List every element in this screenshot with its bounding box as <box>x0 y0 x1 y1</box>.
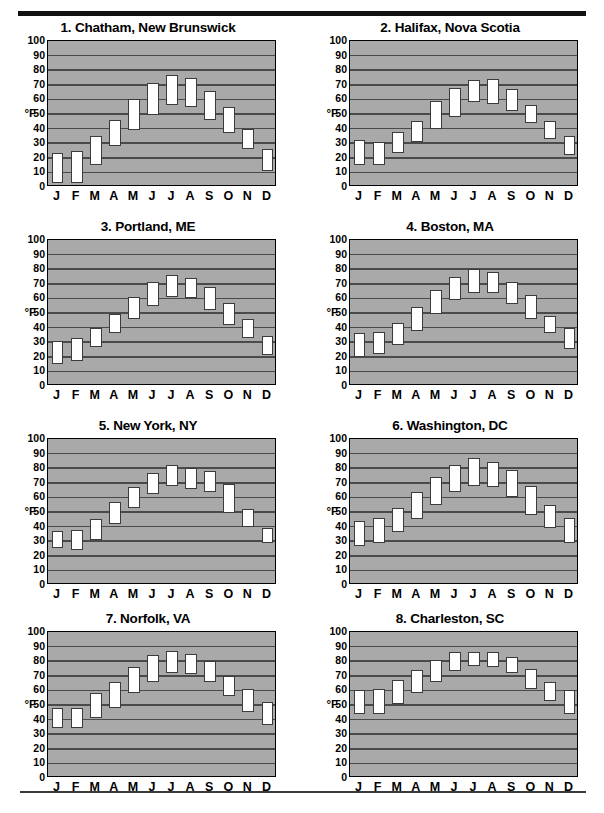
gridline <box>350 254 577 256</box>
gridline <box>350 312 577 314</box>
gridline <box>48 254 275 256</box>
chart-panel-8: 8. Charleston, SC0102030405060708090100°… <box>302 609 604 799</box>
y-axis-tick-label: 80 <box>321 64 347 74</box>
y-axis-tick-label: 80 <box>321 655 347 665</box>
y-axis-tick-label: 70 <box>19 477 45 487</box>
x-axis-tick-label: J <box>168 189 175 203</box>
range-box <box>430 290 442 315</box>
y-axis-tick-label: 60 <box>321 292 347 302</box>
x-axis-tick-label: M <box>89 388 99 402</box>
range-box <box>564 328 576 350</box>
x-axis-tick-label: J <box>53 587 60 601</box>
y-axis-tick-label: 10 <box>321 365 347 375</box>
range-box <box>71 151 83 183</box>
y-axis-tick-label: 40 <box>321 521 347 531</box>
gridline <box>48 733 275 735</box>
range-box <box>128 667 140 693</box>
range-box <box>242 319 254 338</box>
gridline <box>48 371 275 373</box>
gridline <box>48 298 275 300</box>
range-box <box>128 297 140 319</box>
range-box <box>90 693 102 718</box>
range-box <box>166 75 178 106</box>
range-box <box>544 316 556 334</box>
gridline <box>48 763 275 765</box>
plot-area <box>349 631 578 777</box>
x-axis-tick-label: J <box>470 189 477 203</box>
range-box <box>71 530 83 550</box>
x-axis-tick-label: F <box>374 388 382 402</box>
plot-area <box>349 239 578 385</box>
y-axis-tick-label: 60 <box>321 684 347 694</box>
y-axis-tick-label: 0 <box>19 380 45 390</box>
y-axis-tick-label: 60 <box>321 93 347 103</box>
y-axis-tick-label: 30 <box>19 535 45 545</box>
range-box <box>544 505 556 528</box>
y-axis-tick-label: 80 <box>321 462 347 472</box>
x-axis-tick-label: J <box>148 189 155 203</box>
range-box <box>262 336 274 355</box>
x-axis: JFMAMJJASOND <box>47 587 276 603</box>
gridline <box>48 283 275 285</box>
y-axis-tick-label: 10 <box>321 564 347 574</box>
range-box <box>564 136 576 155</box>
x-axis: JFMAMJJASOND <box>47 388 276 404</box>
range-box <box>147 83 159 115</box>
gridline <box>350 84 577 86</box>
gridline <box>350 646 577 648</box>
gridline <box>350 371 577 373</box>
x-axis: JFMAMJJASOND <box>349 189 578 205</box>
top-rule-divider <box>18 11 586 16</box>
range-box <box>109 314 121 333</box>
y-axis-tick-label: 30 <box>19 336 45 346</box>
x-axis-tick-label: S <box>205 189 213 203</box>
plot-canvas <box>349 438 578 584</box>
y-axis-tick-label: 20 <box>321 743 347 753</box>
range-box <box>373 142 385 165</box>
range-box <box>449 88 461 117</box>
range-box <box>262 149 274 171</box>
gridline <box>350 298 577 300</box>
x-axis-tick-label: F <box>72 587 80 601</box>
y-axis-tick-label: 40 <box>19 123 45 133</box>
gridline <box>350 497 577 499</box>
y-axis-tick-label: 10 <box>19 564 45 574</box>
range-box <box>52 531 64 549</box>
range-box <box>373 332 385 354</box>
range-box <box>373 518 385 543</box>
y-axis-tick-label: 20 <box>321 152 347 162</box>
y-axis-tick-label: 60 <box>19 684 45 694</box>
x-axis-tick-label: D <box>262 587 271 601</box>
y-axis-tick-label: 90 <box>321 50 347 60</box>
y-axis-tick-label: 60 <box>321 491 347 501</box>
chart-panel-6: 6. Washington, DC0102030405060708090100°… <box>302 416 604 609</box>
x-axis-tick-label: J <box>148 388 155 402</box>
range-box <box>166 275 178 297</box>
x-axis-tick-label: O <box>223 587 233 601</box>
gridline <box>350 482 577 484</box>
y-axis-tick-label: 40 <box>321 714 347 724</box>
range-box <box>109 682 121 708</box>
x-axis-tick-label: M <box>128 587 138 601</box>
range-box <box>223 303 235 325</box>
x-axis-tick-label: M <box>391 388 401 402</box>
range-box <box>430 101 442 129</box>
range-box <box>52 153 64 182</box>
x-axis-tick-label: J <box>148 587 155 601</box>
range-box <box>242 689 254 712</box>
chart-panel-2: 2. Halifax, Nova Scotia01020304050607080… <box>302 18 604 217</box>
range-box <box>147 655 159 681</box>
y-axis-tick-label: 0 <box>19 772 45 782</box>
y-axis-tick-label: 40 <box>19 322 45 332</box>
range-box <box>109 502 121 524</box>
plot-area <box>47 438 276 584</box>
chart-grid: 1. Chatham, New Brunswick010203040506070… <box>0 18 604 799</box>
y-axis-tick-label: 100 <box>19 433 45 443</box>
climate-chart-page: 1. Chatham, New Brunswick010203040506070… <box>0 0 604 813</box>
x-axis-tick-label: J <box>355 189 362 203</box>
x-axis-tick-label: D <box>564 587 573 601</box>
y-axis-tick-label: 80 <box>19 263 45 273</box>
chart-title: 8. Charleston, SC <box>302 611 598 626</box>
y-axis-tick-label: 0 <box>19 579 45 589</box>
range-box <box>354 333 366 356</box>
